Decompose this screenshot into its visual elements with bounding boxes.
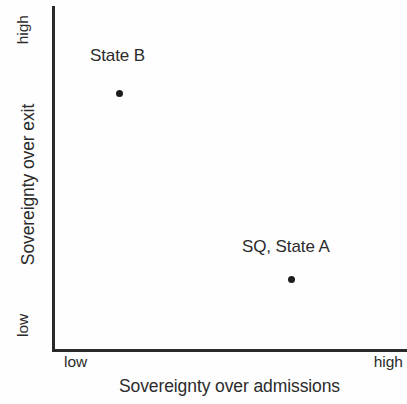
scatter-chart-figure: Sovereignty over exit Sovereignty over a… xyxy=(0,0,407,404)
x-axis-line xyxy=(52,349,407,352)
data-label-state-a: SQ, State A xyxy=(242,237,330,257)
x-axis-tick-low: low xyxy=(64,353,87,371)
y-axis-title: Sovereignty over exit xyxy=(18,75,39,295)
y-axis-tick-low: low xyxy=(14,285,32,337)
data-label-state-b: State B xyxy=(90,46,145,66)
data-point-state-a xyxy=(288,276,295,283)
x-axis-tick-high: high xyxy=(374,353,403,371)
x-axis-title: Sovereignty over admissions xyxy=(52,376,407,397)
y-axis-tick-high: high xyxy=(14,15,32,67)
y-axis-line xyxy=(52,6,55,352)
data-point-state-b xyxy=(116,90,123,97)
